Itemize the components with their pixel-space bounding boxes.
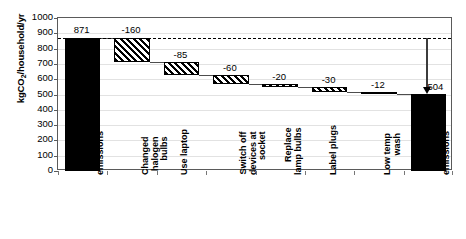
y-axis-tick-mark [54, 110, 58, 111]
delta-bar [361, 92, 397, 94]
y-axis-tick-mark [54, 140, 58, 141]
x-axis-category-label: Initialemissions [86, 131, 105, 175]
x-axis-tick-mark [305, 171, 306, 175]
data-value-label: -20 [253, 71, 305, 82]
x-axis-tick-mark [354, 171, 355, 175]
delta-bar [312, 87, 348, 92]
y-axis-tick-label: 800 [11, 42, 53, 53]
data-value-label: -160 [105, 24, 157, 35]
y-axis-tick-mark [54, 79, 58, 80]
gridline [58, 95, 451, 96]
waterfall-connector [150, 62, 164, 63]
delta-bar [114, 38, 150, 62]
y-axis-tick-mark [54, 64, 58, 65]
reference-line [58, 38, 451, 39]
delta-bar [164, 62, 200, 75]
data-value-label: 871 [56, 24, 108, 35]
y-axis-tick-label: 500 [11, 88, 53, 99]
y-axis-tick-label: 1000 [11, 11, 53, 22]
y-axis-tick-mark [54, 156, 58, 157]
y-axis-tick-label: 100 [11, 149, 53, 160]
x-axis-tick-mark [452, 171, 453, 175]
x-axis-tick-mark [404, 171, 405, 175]
x-axis-category-label: Label plugs [329, 125, 339, 175]
waterfall-connector [397, 94, 411, 95]
data-value-label: -60 [204, 62, 256, 73]
y-axis-tick-mark [54, 18, 58, 19]
y-axis-tick-mark [54, 125, 58, 126]
waterfall-connector [347, 92, 361, 93]
data-value-label: -30 [303, 74, 355, 85]
x-axis-category-label: Finalemissions [432, 131, 451, 175]
x-axis-tick-mark [107, 171, 108, 175]
waterfall-chart: kgCO2/household/yr 010020030040050060070… [0, 0, 466, 239]
y-axis-tick-label: 0 [11, 164, 53, 175]
data-value-label: -85 [154, 49, 206, 60]
x-axis-category-label: Low tempwash [383, 133, 402, 175]
x-axis-tick-mark [58, 171, 59, 175]
waterfall-connector [199, 75, 213, 76]
y-axis-tick-label: 700 [11, 57, 53, 68]
delta-bar [213, 75, 249, 84]
x-axis-category-label: Switch offdevices atsocket [239, 131, 268, 175]
x-axis-category-label: Use laptop [180, 129, 190, 175]
delta-bar [262, 84, 298, 87]
data-value-label: 504 [409, 81, 461, 92]
x-axis-tick-mark [206, 171, 207, 175]
y-axis-tick-label: 900 [11, 26, 53, 37]
gridline [58, 110, 451, 111]
x-axis-category-label: Replacelamp bulbs [284, 127, 303, 175]
y-axis-tick-mark [54, 49, 58, 50]
waterfall-connector [249, 84, 263, 85]
y-axis-tick-label: 600 [11, 72, 53, 83]
y-axis-tick-label: 400 [11, 103, 53, 114]
y-axis-tick-mark [54, 95, 58, 96]
y-axis-tick-label: 300 [11, 118, 53, 129]
waterfall-connector [298, 87, 312, 88]
gridline [58, 125, 451, 126]
data-value-label: -12 [352, 79, 404, 90]
x-axis-category-label: Changedhalogenbulbs [141, 136, 170, 175]
y-axis-tick-label: 200 [11, 133, 53, 144]
